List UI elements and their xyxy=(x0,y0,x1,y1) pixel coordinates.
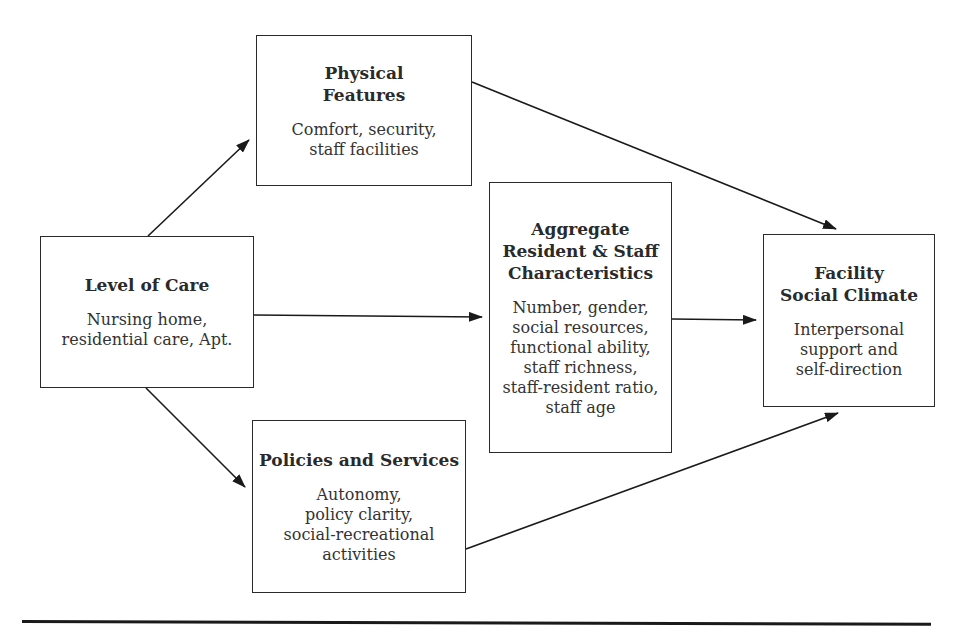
node-title: Policies and Services xyxy=(259,449,459,471)
diagram-canvas: Physical Features Comfort, security, sta… xyxy=(0,0,966,639)
node-title: Aggregate Resident & Staff Characteristi… xyxy=(502,218,658,284)
node-description: Autonomy, policy clarity, social-recreat… xyxy=(284,485,435,565)
node-description: Comfort, security, staff facilities xyxy=(292,120,437,160)
node-description: Nursing home, residential care, Apt. xyxy=(62,310,233,350)
edge-care-to-physical xyxy=(148,140,249,236)
edge-care-to-aggregate xyxy=(254,315,482,317)
node-aggregate-characteristics: Aggregate Resident & Staff Characteristi… xyxy=(489,182,672,453)
node-title: Physical Features xyxy=(323,62,406,106)
node-level-of-care: Level of Care Nursing home, residential … xyxy=(40,236,254,388)
node-description: Interpersonal support and self-direction xyxy=(794,320,904,380)
node-social-climate: Facility Social Climate Interpersonal su… xyxy=(763,234,935,407)
edge-aggregate-to-climate xyxy=(672,319,756,320)
node-physical-features: Physical Features Comfort, security, sta… xyxy=(256,35,472,186)
node-description: Number, gender, social resources, functi… xyxy=(503,298,659,418)
node-title: Level of Care xyxy=(85,274,210,296)
edge-care-to-policies xyxy=(146,388,245,487)
node-policies-services: Policies and Services Autonomy, policy c… xyxy=(252,420,466,593)
node-title: Facility Social Climate xyxy=(780,262,918,306)
